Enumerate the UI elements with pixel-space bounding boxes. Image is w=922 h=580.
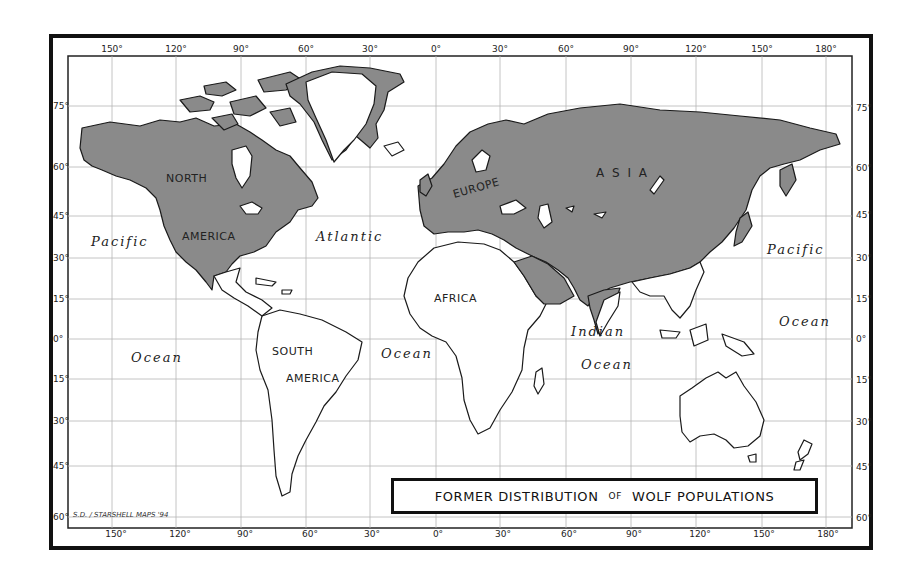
lat-tick-left: 45° [53,461,69,471]
lat-tick-right: 30° [856,253,872,263]
label-ocean-indian: Ocean [581,357,633,372]
lon-tick-top: 0° [431,44,441,54]
label-atlantic: Atlantic [316,229,383,244]
lon-tick-top: 120° [685,44,707,54]
title-part-2: OF [608,491,621,501]
lat-tick-right: 30° [856,417,872,427]
lon-tick-bottom: 0° [433,529,443,539]
lon-tick-top: 60° [558,44,574,54]
label-ocean-west: Ocean [131,350,183,365]
lon-tick-bottom: 90° [626,529,642,539]
lat-tick-right: 60° [856,513,872,523]
lat-tick-left: 60° [53,512,69,522]
label-north-america-1: NORTH [166,172,207,185]
lon-tick-top: 60° [298,44,314,54]
lat-tick-left: 60° [53,162,69,172]
lon-tick-bottom: 150° [753,529,775,539]
label-ocean-atlantic: Ocean [381,346,433,361]
lat-tick-left: 45° [53,211,69,221]
lat-tick-left: 15° [53,294,69,304]
lon-tick-bottom: 60° [302,529,318,539]
lon-tick-top: 180° [815,44,837,54]
lat-tick-left: 30° [53,253,69,263]
lon-tick-bottom: 120° [689,529,711,539]
lat-tick-right: 0° [856,334,866,344]
label-asia: A S I A [596,166,649,180]
lon-tick-bottom: 90° [237,529,253,539]
lon-tick-top: 30° [492,44,508,54]
lon-tick-top: 150° [101,44,123,54]
label-ocean-east: Ocean [779,314,831,329]
lat-tick-right: 60° [856,163,872,173]
lat-tick-left: 30° [53,416,69,426]
lon-tick-top: 120° [165,44,187,54]
map-figure: 150° 120° 90° 60° 30° 0° 30° 60° 90° 120… [0,0,922,580]
label-north-america-2: AMERICA [182,230,236,243]
lat-tick-right: 75° [856,103,872,113]
lat-tick-left: 75° [53,101,69,111]
lon-tick-top: 90° [623,44,639,54]
title-part-3: WOLF POPULATIONS [632,489,774,504]
lon-tick-top: 30° [362,44,378,54]
label-pacific-west: Pacific [91,234,149,249]
lon-tick-top: 150° [751,44,773,54]
lat-tick-left: 15° [53,374,69,384]
label-indian: Indian [571,324,625,339]
lon-tick-bottom: 30° [495,529,511,539]
lon-tick-bottom: 180° [817,529,839,539]
title-part-1: FORMER DISTRIBUTION [435,489,599,504]
lat-tick-right: 15° [856,375,872,385]
label-south-america-1: SOUTH [272,345,313,358]
lon-tick-bottom: 30° [364,529,380,539]
label-africa: AFRICA [434,292,477,305]
lat-tick-right: 45° [856,210,872,220]
map-title-box: FORMER DISTRIBUTION OF WOLF POPULATIONS [391,478,818,514]
lat-tick-right: 45° [856,462,872,472]
label-south-america-2: AMERICA [286,372,340,385]
lon-tick-bottom: 120° [169,529,191,539]
label-pacific-east: Pacific [767,242,825,257]
lat-tick-right: 15° [856,294,872,304]
lon-tick-bottom: 60° [561,529,577,539]
map-credit: S.D. / STARSHELL MAPS '94 [73,511,169,519]
lon-tick-top: 90° [233,44,249,54]
lon-tick-bottom: 150° [105,529,127,539]
lat-tick-left: 0° [53,334,63,344]
